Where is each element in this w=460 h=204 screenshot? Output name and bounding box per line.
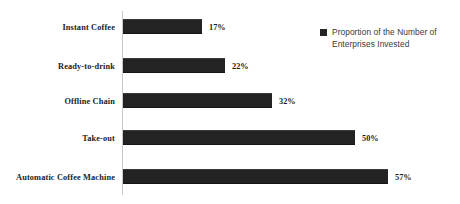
bar-row[interactable]: Offline Chain 32% bbox=[0, 93, 460, 109]
bar[interactable] bbox=[123, 58, 225, 73]
bar[interactable] bbox=[123, 169, 388, 184]
bar-row[interactable]: Take-out 50% bbox=[0, 130, 460, 146]
bar-value-label: 57% bbox=[395, 172, 412, 181]
bar[interactable] bbox=[123, 19, 202, 34]
bar-track: 50% bbox=[123, 130, 388, 145]
category-label: Automatic Coffee Machine bbox=[16, 173, 115, 182]
category-label: Instant Coffee bbox=[62, 23, 115, 32]
bar-track: 22% bbox=[123, 58, 388, 73]
bar-value-label: 22% bbox=[232, 61, 249, 70]
bar-row[interactable]: Ready-to-drink 22% bbox=[0, 58, 460, 74]
category-label: Ready-to-drink bbox=[58, 62, 115, 71]
bar-value-label: 50% bbox=[362, 133, 379, 142]
bar-track: 32% bbox=[123, 93, 388, 108]
chart-legend: Proportion of the Number of Enterprises … bbox=[320, 27, 454, 50]
category-label: Take-out bbox=[82, 134, 115, 143]
bar[interactable] bbox=[123, 130, 355, 145]
category-label: Offline Chain bbox=[64, 97, 115, 106]
bar-row[interactable]: Automatic Coffee Machine 57% bbox=[0, 169, 460, 185]
legend-swatch-icon bbox=[320, 29, 327, 36]
legend-label: Proportion of the Number of Enterprises … bbox=[332, 27, 454, 50]
bar-track: 57% bbox=[123, 169, 388, 184]
bar-value-label: 17% bbox=[209, 22, 226, 31]
bar-chart: Instant Coffee 17% Ready-to-drink 22% Of… bbox=[0, 0, 460, 204]
bar-value-label: 32% bbox=[279, 96, 296, 105]
bar[interactable] bbox=[123, 93, 272, 108]
